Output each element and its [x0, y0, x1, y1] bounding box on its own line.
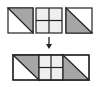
down-arrow-icon — [46, 37, 52, 49]
joined-row — [13, 55, 89, 80]
top-left-half-square-triangle — [8, 8, 33, 33]
top-four-patch — [36, 8, 62, 33]
quilt-assembly-diagram — [0, 0, 99, 87]
top-right-half-square-triangle — [66, 8, 92, 33]
